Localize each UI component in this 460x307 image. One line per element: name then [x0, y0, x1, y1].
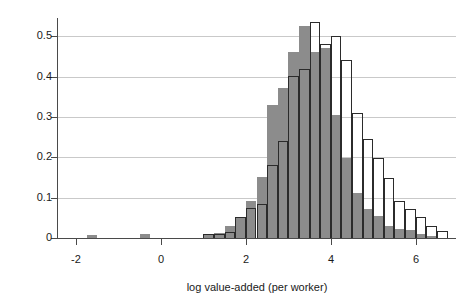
histogram-bar-outline [246, 208, 257, 239]
y-tick-label-text: 0.3 [24, 111, 52, 122]
x-axis-line [57, 238, 456, 239]
histogram-bar-outline [267, 165, 278, 239]
x-tick-mark [161, 239, 162, 245]
y-tick-label-text: 0.5 [24, 30, 52, 41]
y-tick-label: 0.2 [18, 151, 52, 162]
y-axis-line [57, 18, 58, 238]
x-tick-mark [76, 239, 77, 245]
histogram-bar-outline [373, 158, 384, 239]
histogram-bar-outline [416, 217, 427, 239]
y-tick-label-text: 0.4 [24, 71, 52, 82]
histogram-bar-outline [352, 113, 363, 239]
histogram-chart: Density 00.10.20.30.40.5-20246 log value… [0, 0, 460, 307]
plot-area: 00.10.20.30.40.5-20246 [0, 0, 460, 307]
x-tick-mark [246, 239, 247, 245]
y-gridline [57, 36, 456, 37]
histogram-bar-outline [405, 209, 416, 239]
histogram-bar-outline [320, 44, 331, 239]
histogram-bar-outline [288, 76, 299, 239]
x-tick-label: 2 [226, 253, 266, 265]
y-tick-label: 0.4 [18, 71, 52, 82]
x-tick-label: 4 [311, 253, 351, 265]
y-tick-label: 0.5 [18, 30, 52, 41]
y-tick-label-text: 0 [24, 232, 52, 243]
y-tick-label: 0.3 [18, 111, 52, 122]
histogram-bar-outline [384, 178, 395, 239]
histogram-bar-outline [235, 217, 246, 239]
histogram-bar-outline [363, 139, 374, 239]
histogram-bar-outline [394, 201, 405, 239]
y-gridline [57, 117, 456, 118]
histogram-bar-outline [257, 204, 268, 239]
histogram-bar-outline [331, 36, 342, 239]
y-gridline [57, 77, 456, 78]
x-tick-label: 0 [141, 253, 181, 265]
y-tick-label: 0.1 [18, 192, 52, 203]
x-tick-label: -2 [56, 253, 96, 265]
x-axis-title: log value-added (per worker) [57, 281, 457, 293]
y-gridline [57, 157, 456, 158]
x-tick-mark [416, 239, 417, 245]
histogram-bar-outline [341, 60, 352, 239]
y-tick-label-text: 0.1 [24, 192, 52, 203]
histogram-bar-outline [278, 141, 289, 239]
histogram-bar-outline [310, 22, 321, 239]
histogram-bar-outline [299, 69, 310, 239]
y-tick-label-text: 0.2 [24, 151, 52, 162]
x-tick-mark [331, 239, 332, 245]
x-tick-label: 6 [396, 253, 436, 265]
y-tick-label: 0 [18, 232, 52, 243]
